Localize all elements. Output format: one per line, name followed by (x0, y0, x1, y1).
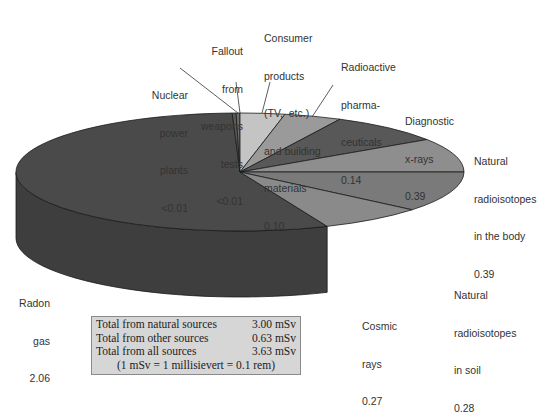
label-pharma: Radioactive pharma- ceuticals 0.14 (341, 36, 396, 199)
label-xray: Diagnostic x-rays 0.39 (405, 90, 454, 215)
label-cosmic: Cosmic rays 0.27 (362, 295, 397, 416)
summary-row-other: Total from other sources 0.63 mSv (96, 332, 296, 346)
summary-row-natural: Total from natural sources 3.00 mSv (96, 318, 296, 332)
label-fallout: Fallout from weapons tests <0.01 (190, 20, 243, 220)
label-soil: Natural radioisotopes in soil 0.28 (454, 264, 516, 416)
label-nuclear: Nuclear power plants <0.01 (120, 64, 188, 227)
label-radon: Radon gas 2.06 (10, 272, 50, 397)
summary-note: (1 mSv = 1 millisievert = 0.1 rem) (96, 359, 296, 373)
summary-box: Total from natural sources 3.00 mSv Tota… (91, 316, 301, 375)
label-consumer: Consumer products (TV, etc.) and buildin… (264, 7, 321, 245)
summary-row-all: Total from all sources 3.63 mSv (96, 345, 296, 359)
